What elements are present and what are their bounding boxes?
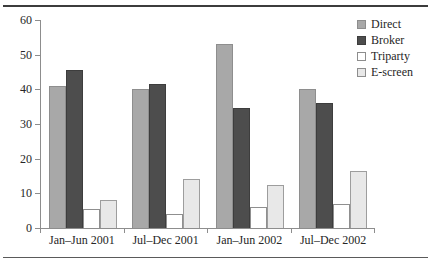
bar-broker[interactable]	[233, 108, 250, 228]
bar-triparty[interactable]	[83, 209, 100, 228]
y-tick-mark	[35, 159, 40, 160]
top-rule	[3, 5, 428, 7]
y-tick-label: 20	[20, 153, 32, 165]
bar-broker[interactable]	[66, 70, 83, 228]
y-tick-mark	[35, 20, 40, 21]
y-tick-label: 30	[20, 118, 32, 130]
legend-label: Broker	[371, 34, 404, 46]
bar-triparty[interactable]	[166, 214, 183, 228]
y-tick-label: 0	[26, 222, 32, 234]
bar-e-screen[interactable]	[350, 171, 367, 228]
x-tick-mark	[124, 228, 125, 233]
x-axis-labels: Jan–Jun 2001Jul–Dec 2001Jan–Jun 2002Jul–…	[40, 234, 375, 246]
bar-group	[41, 20, 125, 228]
legend-item-broker[interactable]: Broker	[357, 34, 413, 46]
bar-e-screen[interactable]	[100, 200, 117, 228]
x-tick-mark	[374, 228, 375, 233]
bar-triparty[interactable]	[250, 207, 267, 228]
y-tick-label: 10	[20, 187, 32, 199]
legend-label: E-screen	[371, 66, 413, 78]
legend-label: Direct	[371, 18, 401, 30]
legend-label: Triparty	[371, 50, 410, 62]
legend-swatch-icon	[357, 68, 366, 77]
bar-e-screen[interactable]	[183, 179, 200, 228]
legend-swatch-icon	[357, 36, 366, 45]
x-tick-label: Jul–Dec 2002	[291, 234, 375, 246]
bar-direct[interactable]	[49, 86, 66, 228]
legend-swatch-icon	[357, 52, 366, 61]
bar-groups	[41, 20, 375, 228]
bar-direct[interactable]	[299, 89, 316, 228]
chart-plot-area: 0102030405060	[40, 20, 375, 228]
x-tick-label: Jan–Jun 2001	[40, 234, 124, 246]
chart-legend: DirectBrokerTripartyE-screen	[357, 18, 413, 78]
legend-item-direct[interactable]: Direct	[357, 18, 413, 30]
y-tick-mark	[35, 124, 40, 125]
y-tick-label: 50	[20, 49, 32, 61]
bar-group	[208, 20, 292, 228]
y-tick-label: 40	[20, 83, 32, 95]
x-tick-label: Jan–Jun 2002	[208, 234, 292, 246]
bottom-rule	[3, 257, 428, 258]
x-tick-mark	[291, 228, 292, 233]
bar-direct[interactable]	[216, 44, 233, 228]
bar-broker[interactable]	[316, 103, 333, 228]
legend-item-e-screen[interactable]: E-screen	[357, 66, 413, 78]
y-tick-mark	[35, 55, 40, 56]
y-tick-label: 60	[20, 14, 32, 26]
bar-broker[interactable]	[149, 84, 166, 228]
y-tick-mark	[35, 193, 40, 194]
bar-e-screen[interactable]	[267, 185, 284, 228]
bar-triparty[interactable]	[333, 204, 350, 228]
x-tick-mark	[40, 228, 41, 233]
x-tick-label: Jul–Dec 2001	[124, 234, 208, 246]
x-tick-mark	[207, 228, 208, 233]
bar-group	[125, 20, 209, 228]
legend-swatch-icon	[357, 20, 366, 29]
y-tick-mark	[35, 89, 40, 90]
legend-item-triparty[interactable]: Triparty	[357, 50, 413, 62]
bar-direct[interactable]	[132, 89, 149, 228]
